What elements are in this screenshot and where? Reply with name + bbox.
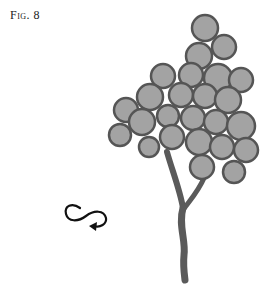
loop-arrow-icon bbox=[0, 0, 278, 287]
